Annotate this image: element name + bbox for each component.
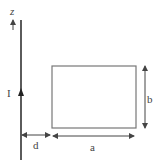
diagram-canvas: z I d a b <box>0 0 162 168</box>
current-loop <box>52 66 136 128</box>
width-label: a <box>90 142 95 153</box>
height-label: b <box>147 94 153 105</box>
current-label: I <box>7 88 11 99</box>
diagram-svg <box>0 0 162 168</box>
z-axis-label: z <box>10 6 14 17</box>
distance-label: d <box>33 140 39 151</box>
current-arrow-icon <box>18 88 24 96</box>
